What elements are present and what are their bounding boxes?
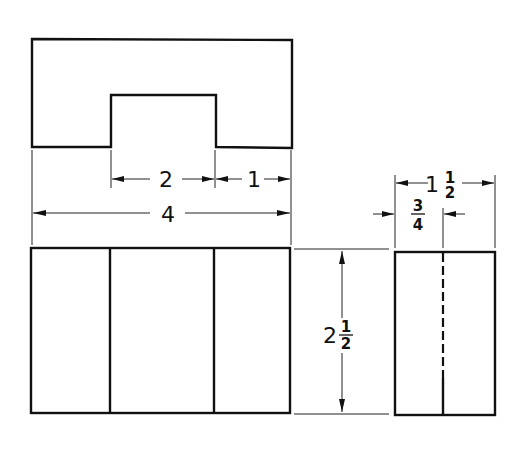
top-extension-lines [32, 150, 291, 245]
dim-half-den: 4 [413, 216, 423, 234]
dimension-depth: 1 1 2 [396, 169, 494, 202]
dim-half-num: 3 [413, 197, 423, 215]
dim-depth-den: 2 [445, 184, 455, 202]
orthographic-drawing: 2 1 4 2 1 2 [0, 0, 529, 450]
front-view [31, 248, 290, 413]
dim-height-whole: 2 [323, 323, 337, 348]
dim-height-num: 1 [341, 318, 351, 336]
dim-depth-whole: 1 [425, 172, 439, 197]
dimension-notch-width: 2 [112, 167, 214, 192]
dimension-overall-width: 4 [33, 202, 290, 227]
top-view [32, 39, 292, 148]
dim-height-den: 2 [341, 335, 351, 353]
dim-label-1: 1 [247, 167, 261, 192]
dim-label-4: 4 [161, 202, 175, 227]
dimension-half-depth: 3 4 [373, 197, 465, 234]
dimension-ledge-width: 1 [216, 167, 290, 192]
right-side-view [395, 252, 495, 415]
dim-label-2: 2 [159, 167, 173, 192]
dimension-height: 2 1 2 [323, 251, 353, 412]
